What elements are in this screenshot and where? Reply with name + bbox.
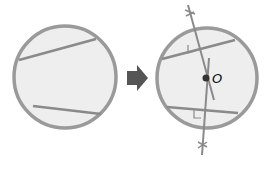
diagram-canvas: O <box>0 0 274 172</box>
left-figure <box>14 26 116 128</box>
right-figure: O <box>157 5 257 155</box>
center-point <box>203 75 210 82</box>
right-arrow-icon <box>127 65 148 91</box>
left-circle <box>14 26 116 128</box>
center-label: O <box>212 71 222 86</box>
